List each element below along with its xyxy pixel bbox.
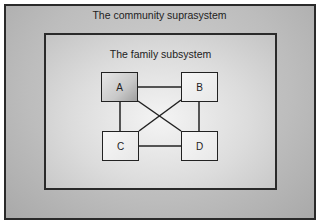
connection-lines [0,0,319,224]
node-d-label: D [196,141,203,152]
node-d: D [181,131,218,161]
node-b-label: B [196,82,203,93]
node-a: A [101,72,138,102]
node-a-label: A [116,82,123,93]
node-c-label: C [117,141,124,152]
node-b: B [181,72,218,102]
node-c: C [102,131,139,161]
